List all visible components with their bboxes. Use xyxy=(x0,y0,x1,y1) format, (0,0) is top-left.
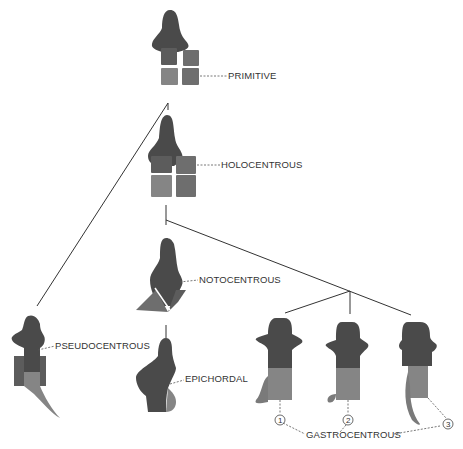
vertebra-pseudocentrous: PSEUDOCENTROUS xyxy=(12,315,150,418)
label-epichordal: EPICHORDAL xyxy=(185,373,248,384)
gastro-num-2: 2 xyxy=(346,416,351,425)
label-gastrocentrous: GASTROCENTROUS xyxy=(306,429,401,440)
vertebra-gastrocentrous-2: 2 xyxy=(326,322,369,425)
vertebra-notocentrous: NOTOCENTROUS xyxy=(136,238,281,312)
edge-gastro-1 xyxy=(285,291,350,313)
tree-lines xyxy=(37,103,411,338)
vertebra-holocentrous: HOLOCENTROUS xyxy=(148,115,302,197)
vertebra-epichordal: EPICHORDAL xyxy=(136,338,248,412)
label-holocentrous: HOLOCENTROUS xyxy=(221,159,302,170)
gastro-num-1: 1 xyxy=(278,416,283,425)
gastrocentrous-callout: GASTROCENTROUS xyxy=(283,423,440,440)
vertebra-gastrocentrous-3: 3 xyxy=(399,322,453,429)
vertebra-diagram: PRIMITIVE HOLOCENTROUS NOTOCENTROUS EPIC… xyxy=(0,0,463,449)
vertebra-gastrocentrous-1: 1 xyxy=(256,318,303,425)
label-notocentrous: NOTOCENTROUS xyxy=(199,274,281,285)
label-primitive: PRIMITIVE xyxy=(228,70,276,81)
vertebra-primitive: PRIMITIVE xyxy=(152,10,277,85)
edge-primitive-pseudocentrous xyxy=(37,103,168,306)
gastro-num-3: 3 xyxy=(446,420,451,429)
edge-to-gastro-group xyxy=(166,220,411,315)
label-pseudocentrous: PSEUDOCENTROUS xyxy=(55,340,150,351)
